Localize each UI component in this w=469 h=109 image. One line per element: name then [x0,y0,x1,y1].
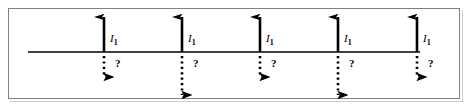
up-arrows-group [104,17,417,52]
current-label-I1: I1 [423,33,431,47]
question-mark-label: ? [193,58,199,69]
diagram-canvas [0,0,469,109]
current-label-I1: I1 [344,33,352,47]
current-subscript: 1 [192,38,196,47]
physics-figure: I1?I1?I1?I1?I1? [0,0,469,109]
current-subscript: 1 [270,38,274,47]
current-subscript: 1 [348,38,352,47]
current-label-I1: I1 [266,33,274,47]
question-mark-label: ? [428,58,434,69]
current-label-I1: I1 [188,33,196,47]
question-mark-label: ? [115,58,121,69]
question-mark-label: ? [271,58,277,69]
current-label-I1: I1 [110,33,118,47]
down-arrows-group [104,56,417,95]
current-subscript: 1 [427,38,431,47]
current-subscript: 1 [114,38,118,47]
question-mark-label: ? [349,58,355,69]
